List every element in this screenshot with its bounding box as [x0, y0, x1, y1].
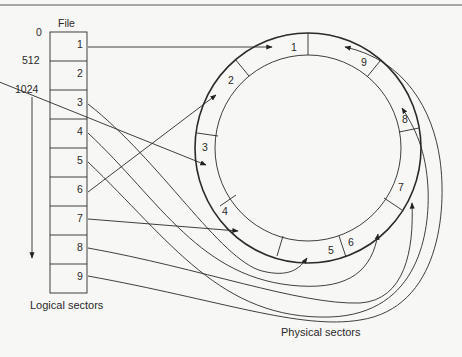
physical-sector-7: 7 [398, 181, 404, 193]
file-label: File [58, 17, 75, 29]
physical-sector-6: 6 [348, 236, 354, 248]
logical-sectors-caption: Logical sectors [30, 299, 104, 311]
offset-512: 512 [22, 54, 40, 66]
logical-sector-9: 9 [77, 270, 83, 282]
logical-sector-7: 7 [77, 212, 83, 224]
mapping-arrows [0, 47, 442, 322]
physical-sector-9: 9 [361, 56, 367, 68]
logical-sector-8: 8 [77, 241, 83, 253]
logical-sector-1: 1 [77, 38, 83, 50]
disk-track: 1 9 8 7 6 5 4 3 2 [195, 33, 421, 263]
logical-sector-4: 4 [77, 125, 83, 137]
physical-sector-2: 2 [228, 74, 234, 86]
physical-sector-8: 8 [402, 113, 408, 125]
offset-0: 0 [36, 26, 42, 38]
logical-sector-6: 6 [77, 183, 83, 195]
physical-sector-5: 5 [328, 244, 334, 256]
physical-sector-3: 3 [202, 141, 208, 153]
physical-sectors-caption: Physical sectors [281, 326, 361, 338]
logical-sector-5: 5 [77, 154, 83, 166]
interleave-diagram: File 0 512 1024 1 2 3 4 5 6 7 8 9 Logica… [0, 0, 462, 357]
logical-sector-2: 2 [77, 67, 83, 79]
physical-sector-4: 4 [222, 205, 228, 217]
physical-sector-1: 1 [291, 41, 297, 53]
logical-sector-3: 3 [77, 96, 83, 108]
